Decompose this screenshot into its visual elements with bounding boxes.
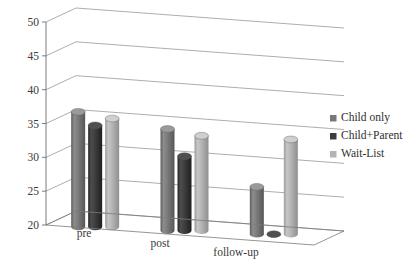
legend-label: Child only bbox=[341, 111, 390, 124]
grid-depth-line bbox=[46, 8, 76, 22]
bar-top bbox=[88, 122, 102, 129]
y-axis-tick-labels: 20253035404550 bbox=[28, 16, 40, 231]
bar-top bbox=[267, 231, 281, 238]
grid-line bbox=[76, 8, 344, 28]
legend: Child onlyChild+ParentWait-List bbox=[330, 111, 403, 159]
y-tick-label: 25 bbox=[28, 185, 40, 197]
y-tick-label: 40 bbox=[28, 84, 40, 96]
bar-top bbox=[161, 126, 175, 133]
grid-depth-line bbox=[46, 76, 76, 90]
grid-depth-line bbox=[46, 42, 76, 56]
bar-follow-up-child-only bbox=[250, 183, 264, 237]
bar-top bbox=[250, 183, 264, 190]
chart-container: 20253035404550 prepostfollow-up Child on… bbox=[0, 0, 410, 260]
x-category-label: post bbox=[150, 237, 170, 250]
legend-swatch bbox=[330, 151, 337, 158]
bar-body bbox=[88, 125, 102, 230]
axis-lines bbox=[42, 22, 46, 225]
legend-label: Child+Parent bbox=[341, 129, 403, 141]
bar-pre-child-parent bbox=[88, 122, 102, 230]
bars-group bbox=[71, 108, 298, 237]
legend-label: Wait-List bbox=[341, 147, 385, 159]
bar-chart-3d: 20253035404550 prepostfollow-up Child on… bbox=[0, 0, 410, 260]
y-tick-label: 20 bbox=[28, 219, 40, 231]
x-category-label: pre bbox=[77, 227, 92, 240]
bar-body bbox=[250, 187, 264, 238]
legend-swatch bbox=[330, 133, 337, 140]
y-tick-label: 30 bbox=[28, 151, 40, 163]
bar-top bbox=[178, 153, 192, 160]
y-tick-label: 50 bbox=[28, 16, 40, 28]
bar-top bbox=[71, 108, 85, 115]
y-tick-label: 35 bbox=[28, 118, 40, 130]
bar-follow-up-child-parent bbox=[267, 231, 281, 238]
bar-body bbox=[195, 136, 209, 234]
bar-post-wait-list bbox=[195, 132, 209, 234]
grid-line bbox=[76, 76, 344, 96]
legend-swatch bbox=[330, 115, 337, 122]
bar-body bbox=[284, 139, 298, 237]
x-category-label: follow-up bbox=[213, 246, 259, 259]
bar-top bbox=[105, 115, 119, 122]
bar-top bbox=[284, 136, 298, 143]
bar-follow-up-wait-list bbox=[284, 136, 298, 238]
y-tick-label: 45 bbox=[28, 50, 40, 62]
bar-body bbox=[178, 156, 192, 234]
bar-top bbox=[195, 132, 209, 139]
bar-post-child-parent bbox=[178, 153, 192, 234]
grid-line bbox=[76, 42, 344, 62]
